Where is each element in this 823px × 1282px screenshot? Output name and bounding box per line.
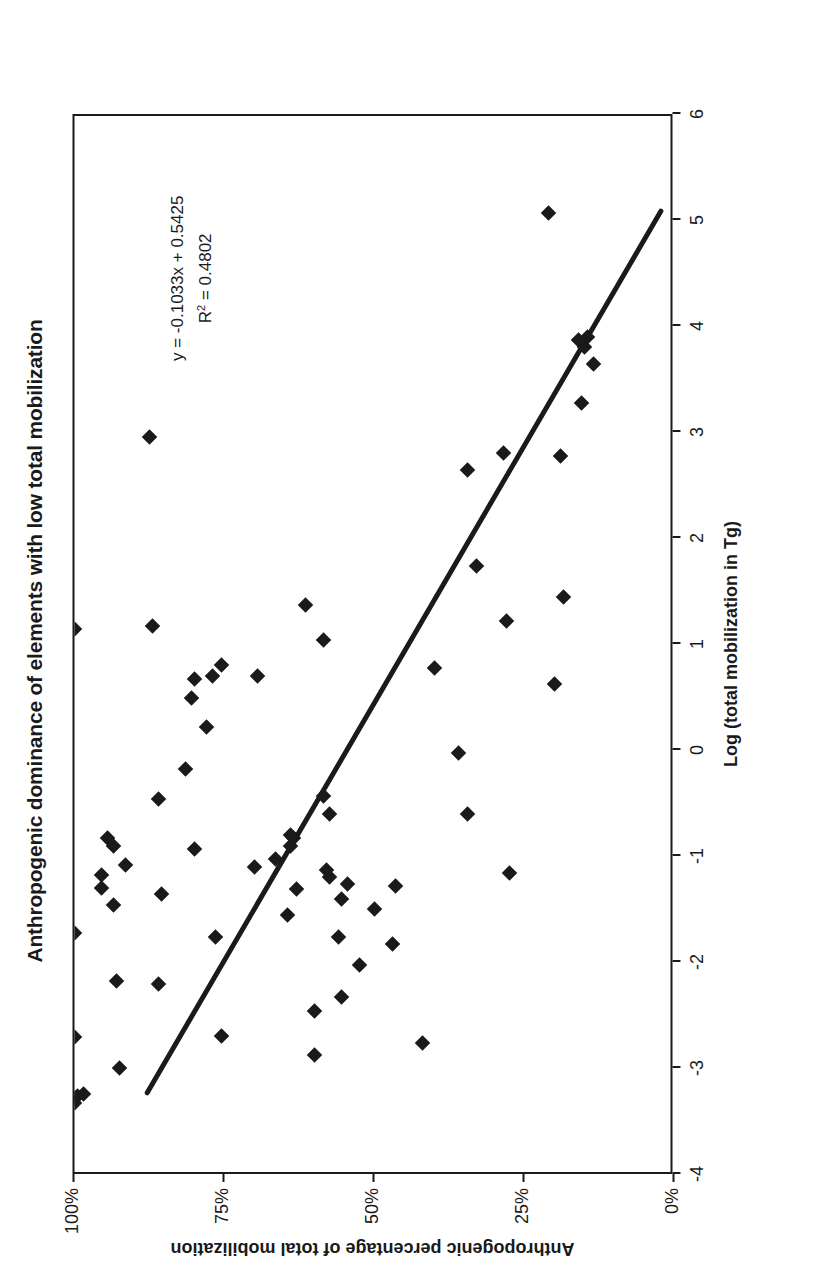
data-point: [555, 590, 571, 606]
data-point: [468, 558, 484, 574]
data-point: [144, 618, 160, 634]
data-point: [279, 908, 295, 924]
data-point: [552, 449, 568, 465]
data-point: [339, 876, 355, 892]
data-point: [204, 668, 220, 684]
x-axis-tick: [672, 854, 680, 856]
regression-annotation: y = -0.1033x + 0.5425 R2 = 0.4802: [166, 196, 218, 361]
x-axis-tick: [672, 218, 680, 220]
data-point: [333, 891, 349, 907]
regression-r2: R2 = 0.4802: [189, 196, 218, 361]
data-point: [183, 690, 199, 706]
data-point: [246, 859, 262, 875]
data-point: [198, 719, 214, 735]
x-axis-tick: [672, 1066, 680, 1068]
x-axis-tick-label: 1: [686, 639, 707, 649]
x-axis-tick: [672, 430, 680, 432]
data-point: [501, 865, 517, 881]
x-axis-tick-label: -4: [686, 1166, 707, 1182]
y-axis-tick-label: 100%: [62, 1188, 83, 1234]
data-point: [459, 463, 475, 479]
x-axis-tick-label: 3: [686, 427, 707, 437]
data-point: [414, 1035, 430, 1051]
x-axis-tick-label: 2: [686, 533, 707, 543]
x-axis-tick: [672, 748, 680, 750]
y-axis-title: Anthropogenic percentage of total mobili…: [170, 1238, 574, 1259]
x-axis-tick: [672, 324, 680, 326]
data-point: [74, 926, 82, 942]
y-axis-tick-label: 25%: [512, 1188, 533, 1224]
data-point: [108, 973, 124, 989]
plot-area: [72, 114, 672, 1174]
x-axis-tick: [672, 112, 680, 114]
data-point: [540, 205, 556, 221]
y-axis-tick: [522, 1174, 524, 1182]
y-axis-tick-label: 0%: [662, 1188, 683, 1214]
x-axis-tick: [672, 960, 680, 962]
data-point: [459, 806, 475, 822]
data-point: [153, 887, 169, 903]
data-point: [186, 841, 202, 857]
data-point: [321, 806, 337, 822]
data-point: [573, 396, 589, 412]
data-point: [207, 929, 223, 945]
data-point: [387, 878, 403, 894]
data-point: [105, 897, 121, 913]
data-point: [74, 622, 82, 638]
data-point: [74, 1030, 82, 1046]
data-point: [498, 613, 514, 629]
data-point: [150, 977, 166, 993]
data-point: [426, 661, 442, 677]
data-point: [306, 1003, 322, 1019]
data-point: [117, 857, 133, 873]
data-point: [546, 677, 562, 693]
y-axis-tick: [672, 1174, 674, 1182]
data-point: [93, 867, 109, 883]
data-point: [150, 791, 166, 807]
y-axis-tick-label: 75%: [212, 1188, 233, 1224]
data-point: [333, 989, 349, 1005]
data-point: [249, 668, 265, 684]
y-axis-tick: [222, 1174, 224, 1182]
data-point: [186, 671, 202, 687]
data-point: [315, 632, 331, 648]
data-point: [297, 597, 313, 613]
trendline: [74, 116, 670, 1172]
data-point: [366, 901, 382, 917]
data-point: [213, 1029, 229, 1045]
x-axis-tick-label: -3: [686, 1060, 707, 1076]
x-axis-tick-label: 5: [686, 215, 707, 225]
plot-inner: [74, 116, 670, 1172]
r2-superscript: 2: [194, 305, 206, 311]
x-axis-title: Log (total mobilization in Tg): [720, 521, 741, 767]
data-point: [351, 958, 367, 974]
data-point: [288, 881, 304, 897]
data-point: [306, 1048, 322, 1064]
chart-title: Anthropogenic dominance of elements with…: [22, 0, 46, 1282]
data-point: [315, 788, 331, 804]
x-axis-tick-label: 0: [686, 745, 707, 755]
regression-equation: y = -0.1033x + 0.5425: [166, 196, 189, 361]
x-axis-tick-label: 6: [686, 109, 707, 119]
r2-value: = 0.4802: [196, 233, 215, 304]
y-axis-tick-label: 50%: [362, 1188, 383, 1224]
data-point: [585, 357, 601, 373]
data-point: [495, 446, 511, 462]
y-axis-tick: [372, 1174, 374, 1182]
data-point: [111, 1060, 127, 1076]
r2-prefix: R: [196, 311, 215, 323]
figure-container: Anthropogenic dominance of elements with…: [0, 0, 823, 1282]
data-point: [330, 929, 346, 945]
data-point: [384, 936, 400, 952]
data-point: [450, 746, 466, 762]
x-axis-tick: [672, 642, 680, 644]
x-axis-tick-label: -2: [686, 954, 707, 970]
data-point: [267, 852, 283, 868]
x-axis-tick: [672, 536, 680, 538]
x-axis-tick-label: -1: [686, 848, 707, 864]
y-axis-tick: [72, 1174, 74, 1182]
data-point: [141, 430, 157, 446]
data-point: [177, 761, 193, 777]
x-axis-tick-label: 4: [686, 321, 707, 331]
